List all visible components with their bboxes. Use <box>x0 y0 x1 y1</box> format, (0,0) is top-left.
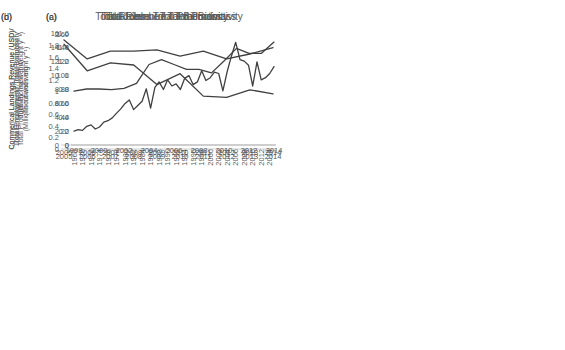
svg-text:2012: 2012 <box>241 146 258 155</box>
svg-text:1998: 1998 <box>66 146 83 155</box>
svg-text:2004: 2004 <box>141 146 158 155</box>
panel-d: (d) Total Revenue / Total Productivity C… <box>0 0 283 175</box>
svg-text:2006: 2006 <box>166 146 183 155</box>
svg-text:0.8: 0.8 <box>59 85 69 94</box>
panel-d-data-line <box>74 42 274 91</box>
svg-text:0.2: 0.2 <box>59 127 69 136</box>
panel-d-chart-canvas: 00.20.40.60.811.21.41.619982000200220042… <box>0 0 283 175</box>
svg-text:2000: 2000 <box>91 146 108 155</box>
svg-text:0.6: 0.6 <box>59 99 69 108</box>
svg-text:2008: 2008 <box>191 146 208 155</box>
svg-text:1: 1 <box>65 71 69 80</box>
svg-text:2014: 2014 <box>266 146 283 155</box>
svg-text:1.2: 1.2 <box>59 57 69 66</box>
svg-text:0.4: 0.4 <box>59 113 69 122</box>
svg-text:2010: 2010 <box>216 146 233 155</box>
svg-text:1.6: 1.6 <box>59 29 69 38</box>
svg-text:2002: 2002 <box>116 146 133 155</box>
svg-text:1.4: 1.4 <box>59 43 69 52</box>
four-panel-line-chart-figure: (a) Total Jobs / Total Biomass Total Emp… <box>0 0 565 350</box>
